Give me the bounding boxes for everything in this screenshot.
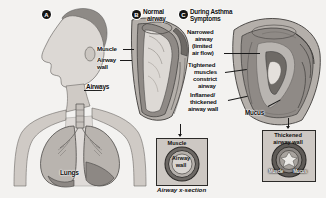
- muscle-leader-line: [123, 49, 134, 50]
- normal-xsection-inner-label-line1: Airway: [166, 155, 196, 161]
- panel-marker-b: B: [132, 10, 141, 19]
- normal-xsection-arrow: [178, 134, 182, 137]
- label-mucus: Mucus: [245, 110, 264, 117]
- label-inflamed-line3: airway wall: [188, 106, 218, 112]
- asthma-xsection-arrow: [286, 126, 290, 129]
- asthma-xsection-title-line1: Thickened: [264, 132, 312, 138]
- label-lungs: Lungs: [60, 170, 79, 177]
- label-airway-wall-line2: wall: [97, 64, 108, 71]
- label-narrowed-line4: air flow): [192, 50, 214, 56]
- label-tightened-line4: airway: [198, 83, 216, 89]
- asthma-xsection-mucus-label: Mucus: [289, 170, 311, 175]
- asthma-xsection-title-line2: airway wall: [264, 139, 312, 145]
- normal-xsection-muscle-label: Muscle: [160, 140, 194, 146]
- panel-marker-c: C: [179, 10, 188, 19]
- airway-wall-leader-line: [120, 60, 132, 61]
- asthma-diagram: A Airways Lungs B Normal airway Musc: [0, 0, 326, 198]
- narrowed-leader-line: [224, 53, 260, 54]
- label-airways: Airways: [86, 84, 109, 91]
- label-muscle-normal: Muscle: [97, 46, 117, 53]
- panel-b-title-line2: airway: [147, 16, 166, 23]
- panel-c-title-line2: Symptoms: [190, 16, 221, 23]
- normal-xsection-inner-label-line2: wall: [166, 162, 196, 168]
- asthma-xsection-muscle-label: Muscle: [265, 170, 287, 175]
- panel-marker-a: A: [42, 10, 51, 19]
- figure-caption: Airway x-section: [157, 186, 206, 193]
